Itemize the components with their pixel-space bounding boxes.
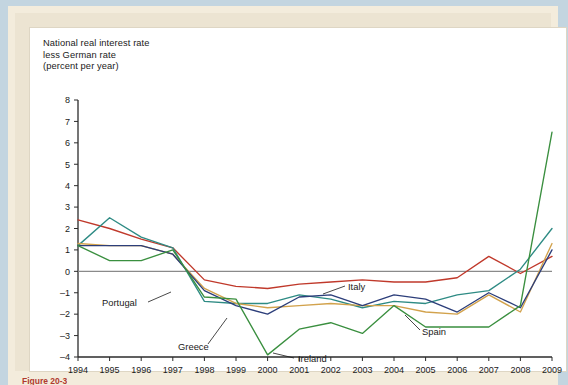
y-tick-label: –2 <box>60 309 70 319</box>
x-tick-label: 1998 <box>194 365 214 373</box>
x-tick-label: 1995 <box>100 365 120 373</box>
x-tick-label: 2008 <box>510 365 530 373</box>
x-tick-label: 2009 <box>542 365 562 373</box>
series-label-italy: Italy <box>348 281 366 292</box>
leader-line-portugal <box>148 292 171 302</box>
y-tick-label: 8 <box>65 95 70 105</box>
series-label-ireland: Ireland <box>298 353 327 364</box>
y-tick-label: –4 <box>60 352 70 362</box>
x-tick-label: 2006 <box>447 365 467 373</box>
y-tick-label: 6 <box>65 138 70 148</box>
x-tick-label: 2000 <box>258 365 278 373</box>
series-line-ireland <box>78 132 552 355</box>
figure-caption: Figure 20-3 <box>22 376 67 385</box>
series-line-portugal <box>78 243 552 314</box>
x-tick-label: 1997 <box>163 365 183 373</box>
y-tick-label: 3 <box>65 202 70 212</box>
x-tick-label: 2002 <box>321 365 341 373</box>
x-tick-label: 1999 <box>226 365 246 373</box>
line-chart: –4–3–2–101234567819941995199619971998199… <box>30 28 568 373</box>
x-tick-label: 1994 <box>68 365 88 373</box>
y-tick-label: –3 <box>60 331 70 341</box>
paper-frame-inner: National real interest rate less German … <box>15 13 551 371</box>
series-label-greece: Greece <box>178 341 209 352</box>
x-tick-label: 2007 <box>479 365 499 373</box>
series-label-portugal: Portugal <box>102 297 137 308</box>
paper-frame-outer: National real interest rate less German … <box>8 6 558 385</box>
series-line-italy <box>78 220 552 289</box>
x-tick-label: 1996 <box>131 365 151 373</box>
y-tick-label: 0 <box>65 267 70 277</box>
y-tick-label: 5 <box>65 160 70 170</box>
plot-area: –4–3–2–101234567819941995199619971998199… <box>30 28 568 373</box>
x-tick-label: 2005 <box>416 365 436 373</box>
series-line-greece <box>78 218 552 308</box>
x-tick-label: 2004 <box>384 365 404 373</box>
y-tick-label: 1 <box>65 245 70 255</box>
x-tick-label: 2003 <box>352 365 372 373</box>
leader-line-italy <box>323 286 345 294</box>
x-tick-label: 2001 <box>289 365 309 373</box>
series-label-spain: Spain <box>422 326 446 337</box>
y-tick-label: 4 <box>65 181 70 191</box>
y-tick-label: 2 <box>65 224 70 234</box>
figure-panel: National real interest rate less German … <box>29 27 567 372</box>
leader-line-greece <box>208 318 227 344</box>
y-tick-label: –1 <box>60 288 70 298</box>
y-tick-label: 7 <box>65 117 70 127</box>
